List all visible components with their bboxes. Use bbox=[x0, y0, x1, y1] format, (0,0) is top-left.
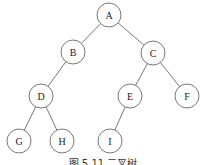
tree-node-C: C bbox=[141, 41, 165, 65]
node-label: A bbox=[105, 10, 113, 21]
tree-canvas: ABCDEFGHI bbox=[0, 0, 206, 165]
tree-node-B: B bbox=[61, 40, 85, 64]
tree-node-H: H bbox=[50, 129, 74, 153]
node-label: D bbox=[37, 91, 44, 102]
node-label: I bbox=[108, 136, 111, 147]
figure-caption: 图 5.11 二叉树 bbox=[0, 155, 206, 165]
node-label: E bbox=[127, 91, 133, 102]
tree-node-F: F bbox=[175, 84, 199, 108]
tree-node-D: D bbox=[29, 84, 53, 108]
node-label: H bbox=[58, 136, 65, 147]
tree-nodes: ABCDEFGHI bbox=[7, 3, 199, 153]
node-label: C bbox=[150, 48, 157, 59]
node-label: G bbox=[15, 136, 22, 147]
tree-node-G: G bbox=[7, 129, 31, 153]
tree-edges bbox=[19, 15, 187, 141]
tree-node-E: E bbox=[118, 84, 142, 108]
tree-node-I: I bbox=[98, 129, 122, 153]
tree-node-A: A bbox=[97, 3, 121, 27]
node-label: B bbox=[70, 47, 77, 58]
node-label: F bbox=[184, 91, 190, 102]
